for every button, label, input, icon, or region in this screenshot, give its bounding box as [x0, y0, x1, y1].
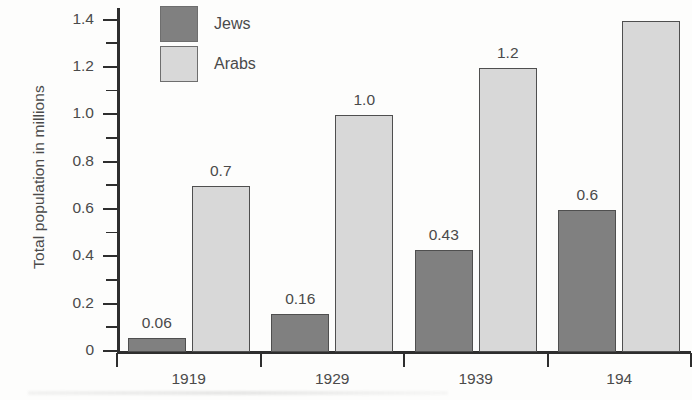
bar-jews-194	[558, 210, 616, 352]
bar-value-label: 0.7	[181, 162, 261, 180]
x-tick-label: 194	[569, 370, 669, 388]
y-tick-major	[103, 208, 118, 210]
x-tick-label: 1919	[139, 370, 239, 388]
legend-item-jews: Jews	[160, 4, 256, 44]
chart-legend: Jews Arabs	[160, 4, 256, 84]
x-tick	[260, 353, 262, 367]
bar-arabs-1939	[479, 68, 537, 352]
y-tick-major	[103, 19, 118, 21]
x-tick-label: 1939	[426, 370, 526, 388]
y-tick-label: 0	[48, 342, 94, 358]
x-tick	[116, 353, 118, 367]
y-tick-major	[103, 161, 118, 163]
x-tick	[403, 353, 405, 367]
y-tick-label: 0.2	[48, 295, 94, 311]
y-tick-major	[103, 113, 118, 115]
bar-arabs-1919	[192, 186, 250, 352]
y-tick-label: 0.8	[48, 153, 94, 169]
bar-jews-1919	[128, 338, 186, 352]
bar-value-label: 0.16	[260, 290, 340, 308]
y-tick-major	[103, 303, 118, 305]
legend-item-arabs: Arabs	[160, 44, 256, 84]
y-tick-label: 1.2	[48, 58, 94, 74]
bar-jews-1929	[271, 314, 329, 352]
y-tick-major	[103, 255, 118, 257]
arabs-swatch-icon	[160, 46, 198, 82]
legend-label-jews: Jews	[214, 15, 250, 33]
bar-value-label: 1.2	[468, 44, 548, 62]
bar-value-label: 1.0	[324, 91, 404, 109]
bar-jews-1939	[415, 250, 473, 352]
y-tick-label: 0.6	[48, 200, 94, 216]
bar-value-label: 0.43	[404, 226, 484, 244]
jews-swatch-icon	[160, 6, 198, 42]
x-tick	[547, 353, 549, 367]
y-tick-label: 1.0	[48, 105, 94, 121]
bar-arabs-194	[622, 21, 680, 352]
bar-value-label: 0.6	[547, 186, 627, 204]
y-tick-label: 0.4	[48, 247, 94, 263]
bar-arabs-1929	[335, 115, 393, 352]
y-tick-major	[103, 66, 118, 68]
y-tick-major	[103, 350, 118, 352]
legend-label-arabs: Arabs	[214, 55, 256, 73]
y-tick-label: 1.4	[48, 11, 94, 27]
scan-artifact	[28, 391, 448, 395]
x-tick-label: 1929	[282, 370, 382, 388]
bar-value-label: 0.06	[117, 314, 197, 332]
y-axis-title: Total population in millions	[30, 52, 48, 302]
